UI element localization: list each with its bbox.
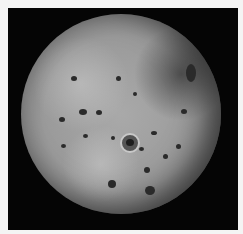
volcanic-spot: [145, 186, 155, 195]
volcanic-spot: [163, 154, 168, 159]
volcanic-spot: [139, 147, 144, 151]
image-frame: [8, 8, 238, 230]
io-moon-image: [21, 14, 221, 214]
volcanic-spot: [79, 109, 87, 115]
volcanic-spot: [61, 144, 66, 148]
volcanic-spot: [133, 92, 137, 96]
volcanic-spot: [111, 136, 115, 140]
volcanic-spot: [176, 144, 181, 149]
central-crater: [120, 133, 140, 153]
volcanic-spot: [108, 180, 116, 188]
volcanic-spot: [181, 109, 187, 114]
volcanic-spot: [96, 110, 102, 115]
volcanic-spot: [186, 64, 196, 82]
volcanic-spot: [83, 134, 88, 138]
volcanic-spot: [116, 76, 121, 81]
volcanic-spot: [59, 117, 65, 122]
volcanic-spot: [71, 76, 77, 81]
volcanic-spot: [144, 167, 150, 173]
volcanic-spot: [151, 131, 157, 135]
